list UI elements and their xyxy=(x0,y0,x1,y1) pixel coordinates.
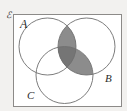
set-label-b: B xyxy=(105,72,112,84)
set-label-c: C xyxy=(27,89,35,101)
set-label-a: A xyxy=(19,17,28,31)
venn-diagram-figure: ℰ A B C xyxy=(0,0,127,111)
venn-diagram-canvas: ℰ A B C xyxy=(0,0,127,111)
